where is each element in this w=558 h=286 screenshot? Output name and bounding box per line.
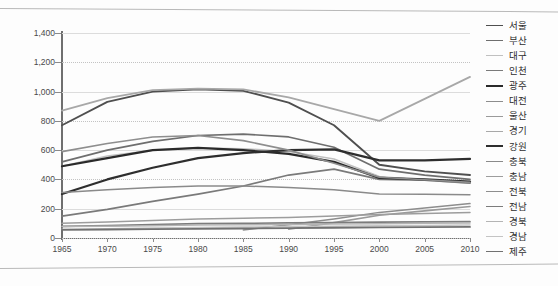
legend-label: 대구 [509, 51, 527, 61]
legend-swatch-icon [486, 116, 503, 117]
legend-item-부산[interactable]: 부산 [486, 33, 556, 48]
y-tick-label: 600 [11, 146, 55, 155]
legend-swatch-icon [486, 25, 503, 26]
legend-swatch-icon [486, 251, 503, 252]
chart-page: 02004006008001,0001,2001,400 19651970197… [0, 0, 558, 286]
legend-swatch-icon [486, 101, 503, 102]
y-tick-mark [55, 179, 61, 180]
legend-swatch-icon [486, 40, 503, 41]
legend-swatch-icon [486, 206, 503, 207]
legend-swatch-icon [486, 131, 503, 132]
series-line-충북 [62, 186, 470, 195]
x-tick-label: 1985 [223, 245, 263, 254]
y-tick-label: 400 [11, 175, 55, 184]
y-tick-mark [55, 121, 61, 122]
legend-item-서울[interactable]: 서울 [486, 18, 556, 33]
y-tick-mark [55, 209, 61, 210]
y-tick-mark [55, 238, 61, 239]
legend-label: 서울 [509, 21, 527, 31]
legend-label: 대전 [509, 96, 527, 106]
legend-label: 울산 [509, 111, 527, 121]
legend-swatch-icon [486, 236, 503, 237]
plot-area [62, 33, 470, 238]
page-border-top [0, 8, 558, 12]
legend-item-충북[interactable]: 충북 [486, 154, 556, 169]
y-tick-label: 1,400 [11, 29, 55, 38]
x-tick-label: 1980 [178, 245, 218, 254]
legend-item-울산[interactable]: 울산 [486, 109, 556, 124]
y-tick-mark [55, 150, 61, 151]
legend-item-대구[interactable]: 대구 [486, 48, 556, 63]
legend-swatch-icon [486, 191, 503, 192]
y-tick-label: 0 [11, 234, 55, 243]
legend-swatch-icon [486, 145, 503, 147]
legend-label: 경남 [509, 232, 527, 242]
legend-item-경남[interactable]: 경남 [486, 229, 556, 244]
y-tick-label: 200 [11, 205, 55, 214]
series-line-서울 [62, 89, 470, 175]
x-tick-label: 1995 [314, 245, 354, 254]
legend-item-제주[interactable]: 제주 [486, 244, 556, 259]
series-line-광주 [62, 148, 470, 182]
legend-item-경기[interactable]: 경기 [486, 124, 556, 139]
legend-label: 광주 [509, 81, 527, 91]
legend-label: 충남 [509, 172, 527, 182]
legend-label: 경북 [509, 217, 527, 227]
y-tick-label: 1,200 [11, 58, 55, 67]
x-tick-label: 1990 [269, 245, 309, 254]
legend-swatch-icon [486, 55, 503, 56]
legend-item-인천[interactable]: 인천 [486, 63, 556, 78]
legend-label: 제주 [509, 247, 527, 257]
legend-label: 전남 [509, 202, 527, 212]
y-tick-mark [55, 62, 61, 63]
legend-item-강원[interactable]: 강원 [486, 139, 556, 154]
gridline [62, 238, 470, 239]
legend-swatch-icon [486, 70, 503, 71]
x-tick-label: 2000 [359, 245, 399, 254]
y-tick-label: 800 [11, 117, 55, 126]
legend-item-충남[interactable]: 충남 [486, 169, 556, 184]
x-tick-label: 1965 [42, 245, 82, 254]
x-tick-label: 2005 [405, 245, 445, 254]
legend-label: 강원 [509, 142, 527, 152]
y-tick-label: 1,000 [11, 88, 55, 97]
legend-label: 인천 [509, 66, 527, 76]
legend-label: 충북 [509, 157, 527, 167]
y-tick-mark [55, 33, 61, 34]
x-tick-label: 1970 [87, 245, 127, 254]
series-lines [62, 33, 470, 238]
legend-item-경북[interactable]: 경북 [486, 214, 556, 229]
legend-swatch-icon [486, 176, 503, 177]
legend-swatch-icon [486, 161, 503, 162]
legend-swatch-icon [486, 85, 503, 87]
legend-swatch-icon [486, 221, 503, 222]
legend-item-전남[interactable]: 전남 [486, 199, 556, 214]
legend-label: 전북 [509, 187, 527, 197]
legend-label: 부산 [509, 36, 527, 46]
page-border-bottom [0, 264, 558, 269]
legend-item-전북[interactable]: 전북 [486, 184, 556, 199]
legend-label: 경기 [509, 126, 527, 136]
y-tick-mark [55, 92, 61, 93]
x-tick-label: 1975 [133, 245, 173, 254]
legend-item-대전[interactable]: 대전 [486, 93, 556, 108]
x-tick-mark [470, 238, 471, 242]
x-tick-label: 2010 [450, 245, 490, 254]
chart-legend: 서울부산대구인천광주대전울산경기강원충북충남전북전남경북경남제주 [486, 18, 556, 260]
legend-item-광주[interactable]: 광주 [486, 78, 556, 93]
